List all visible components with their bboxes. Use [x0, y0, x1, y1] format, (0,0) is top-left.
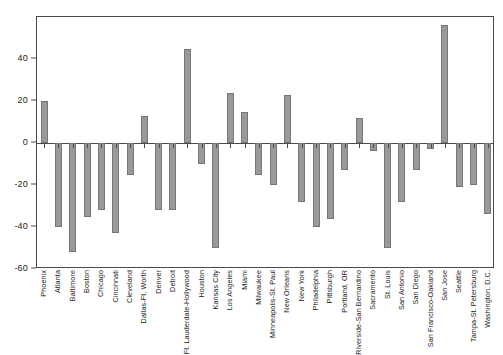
y-tick-label: 40: [18, 53, 28, 63]
x-tick-mark: [445, 144, 446, 148]
x-tick-mark: [388, 144, 389, 148]
x-tick-mark: [330, 144, 331, 148]
x-tick-mark: [187, 144, 188, 148]
x-tick-label: San Francisco-Oakland: [426, 270, 435, 347]
x-tick-label: Pittsburgh: [325, 270, 334, 303]
x-tick-mark: [159, 144, 160, 148]
x-tick-mark: [302, 144, 303, 148]
x-tick-mark: [402, 144, 403, 148]
bar: [55, 143, 62, 227]
x-tick-mark: [245, 144, 246, 148]
x-tick-label: San Jose: [440, 270, 449, 301]
bar: [112, 143, 119, 233]
bar: [184, 49, 191, 144]
x-tick-label: Detroit: [168, 270, 177, 292]
x-tick-label: Portland, OR: [340, 270, 349, 313]
bar: [84, 143, 91, 217]
x-tick-label: Washington, D.C.: [483, 270, 492, 328]
x-tick-label: Phoenix: [39, 270, 48, 297]
x-tick-mark: [474, 144, 475, 148]
x-tick-label: Kansas City: [211, 270, 220, 309]
bar: [98, 143, 105, 210]
x-tick-label: Philadelphia: [311, 270, 320, 310]
bar: [241, 112, 248, 144]
bar: [169, 143, 176, 210]
x-tick-label: New Orleans: [282, 270, 291, 313]
y-axis: 40200-20-40-60: [0, 16, 34, 268]
x-tick-mark: [73, 144, 74, 148]
bar: [313, 143, 320, 227]
x-tick-label: Los Angeles: [225, 270, 234, 310]
bar: [284, 95, 291, 143]
bar: [441, 25, 448, 143]
bar: [298, 143, 305, 202]
x-tick-label: Houston: [197, 270, 206, 297]
bar: [356, 118, 363, 143]
x-tick-mark: [87, 144, 88, 148]
x-tick-label: San Antonio: [397, 270, 406, 310]
x-tick-label: Denver: [154, 270, 163, 294]
x-tick-mark: [488, 144, 489, 148]
x-tick-mark: [259, 144, 260, 148]
x-tick-mark: [431, 144, 432, 148]
x-tick-label: Tampa-St. Petersburg: [469, 270, 478, 342]
x-tick-label: St. Louis: [383, 270, 392, 299]
x-tick-mark: [345, 144, 346, 148]
x-tick-mark: [130, 144, 131, 148]
y-tick-label: -20: [14, 179, 28, 189]
x-tick-label: San Diego: [411, 270, 420, 304]
plot-area: [36, 16, 494, 268]
x-tick-label: Milwaukee: [254, 270, 263, 305]
x-tick-mark: [173, 144, 174, 148]
bar: [456, 143, 463, 187]
x-tick-label: Baltimore: [68, 270, 77, 301]
x-tick-label: Cincinnati: [111, 270, 120, 303]
bar: [484, 143, 491, 214]
x-tick-label: Minneapolis-St. Paul: [268, 270, 277, 338]
x-tick-mark: [316, 144, 317, 148]
bar: [141, 116, 148, 143]
x-tick-label: Boston: [82, 270, 91, 293]
bar: [155, 143, 162, 210]
x-tick-label: Sacramento: [368, 270, 377, 310]
y-tick-label: -40: [14, 221, 28, 231]
bar: [384, 143, 391, 248]
x-tick-label: Atlanta: [53, 270, 62, 293]
bar: [470, 143, 477, 185]
x-tick-mark: [101, 144, 102, 148]
x-tick-mark: [44, 144, 45, 148]
y-tick-label: 0: [23, 137, 28, 147]
x-tick-label: Cleveland: [125, 270, 134, 303]
bar: [327, 143, 334, 219]
x-tick-mark: [116, 144, 117, 148]
x-tick-label: Riverside-San Bernardino: [354, 270, 363, 355]
x-tick-mark: [416, 144, 417, 148]
x-tick-label: Chicago: [96, 270, 105, 297]
bar: [212, 143, 219, 248]
x-tick-mark: [144, 144, 145, 148]
bar: [270, 143, 277, 185]
x-tick-mark: [359, 144, 360, 148]
y-tick-label: -60: [14, 263, 28, 273]
x-tick-label: Dallas-Ft. Worth: [139, 270, 148, 323]
x-tick-mark: [216, 144, 217, 148]
x-tick-mark: [230, 144, 231, 148]
bars-layer: [37, 17, 493, 267]
x-tick-mark: [58, 144, 59, 148]
x-tick-label: Ft. Lauderdale-Hollywood: [182, 270, 191, 354]
x-tick-mark: [287, 144, 288, 148]
bar: [398, 143, 405, 202]
x-tick-mark: [273, 144, 274, 148]
bar: [227, 93, 234, 143]
x-tick-label: New York: [297, 270, 306, 301]
x-tick-mark: [202, 144, 203, 148]
x-tick-mark: [459, 144, 460, 148]
x-tick-label: Miami: [240, 270, 249, 290]
bar: [69, 143, 76, 252]
bar: [41, 101, 48, 143]
x-tick-label: Seattle: [454, 270, 463, 293]
x-tick-mark: [373, 144, 374, 148]
x-axis: PhoenixAtlantaBaltimoreBostonChicagoCinc…: [36, 270, 494, 351]
y-tick-label: 20: [18, 95, 28, 105]
